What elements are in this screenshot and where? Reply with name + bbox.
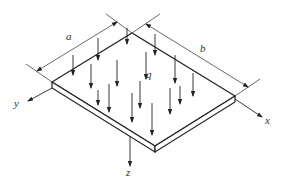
label-b: b	[200, 42, 206, 54]
label-a: a	[66, 30, 72, 42]
label-x: x	[264, 114, 270, 126]
label-q: q	[146, 68, 152, 80]
label-z: z	[125, 166, 131, 178]
axis-x	[235, 99, 262, 117]
plate	[52, 33, 235, 152]
label-y: y	[13, 97, 19, 109]
plate-top-face	[52, 33, 235, 146]
axis-y	[28, 88, 52, 101]
plate-diagram: a b q y x z	[0, 0, 281, 189]
